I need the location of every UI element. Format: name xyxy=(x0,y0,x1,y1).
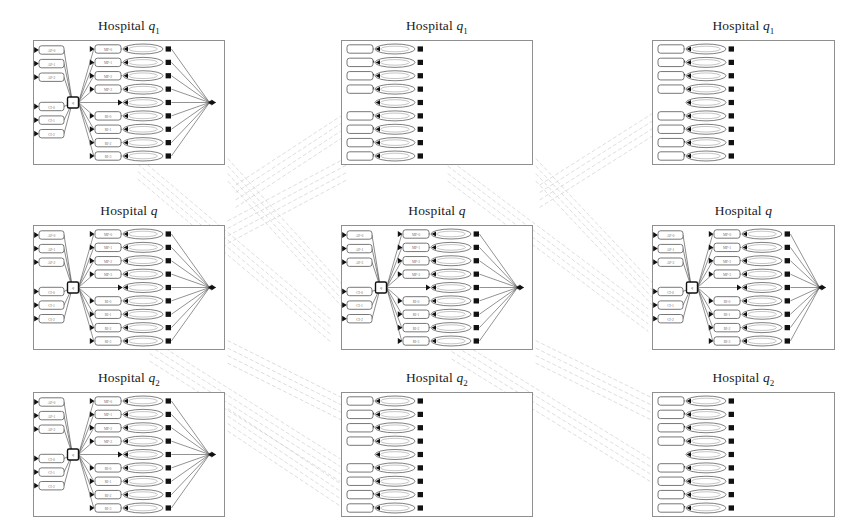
ellipse-node[interactable] xyxy=(123,309,163,319)
mid-node[interactable] xyxy=(658,437,684,445)
mid-node[interactable] xyxy=(347,45,373,53)
mid-node[interactable] xyxy=(658,504,684,512)
ellipse-node[interactable] xyxy=(686,124,726,134)
ellipse-node[interactable] xyxy=(123,98,163,108)
ellipse-node[interactable] xyxy=(123,44,163,54)
mid-node[interactable] xyxy=(658,58,684,66)
ellipse-node[interactable] xyxy=(123,242,163,252)
ellipse-node[interactable] xyxy=(123,138,163,148)
ellipse-node[interactable] xyxy=(686,71,726,81)
ellipse-node[interactable] xyxy=(375,71,415,81)
ellipse-node[interactable] xyxy=(742,323,782,333)
ellipse-node[interactable] xyxy=(375,476,415,486)
mid-node[interactable] xyxy=(658,464,684,472)
ellipse-node[interactable] xyxy=(123,296,163,306)
ellipse-node[interactable] xyxy=(686,98,726,108)
ellipse-node[interactable] xyxy=(123,323,163,333)
mid-node[interactable] xyxy=(658,477,684,485)
mid-node[interactable] xyxy=(347,125,373,133)
mid-node[interactable] xyxy=(658,490,684,498)
ellipse-node[interactable] xyxy=(431,242,471,252)
ellipse-node[interactable] xyxy=(686,463,726,473)
ellipse-node[interactable] xyxy=(123,423,163,433)
mid-node[interactable] xyxy=(658,138,684,146)
ellipse-node[interactable] xyxy=(686,476,726,486)
ellipse-node[interactable] xyxy=(742,309,782,319)
ellipse-node[interactable] xyxy=(123,396,163,406)
mid-node[interactable] xyxy=(347,490,373,498)
ellipse-node[interactable] xyxy=(375,450,415,460)
ellipse-node[interactable] xyxy=(123,476,163,486)
mid-node[interactable] xyxy=(347,112,373,120)
ellipse-node[interactable] xyxy=(375,151,415,161)
ellipse-node[interactable] xyxy=(123,436,163,446)
ellipse-node[interactable] xyxy=(375,436,415,446)
ellipse-node[interactable] xyxy=(431,283,471,293)
ellipse-node[interactable] xyxy=(686,84,726,94)
mid-node[interactable] xyxy=(347,464,373,472)
ellipse-node[interactable] xyxy=(123,151,163,161)
mid-node[interactable] xyxy=(347,85,373,93)
ellipse-node[interactable] xyxy=(123,450,163,460)
mid-node[interactable] xyxy=(347,58,373,66)
mid-node[interactable] xyxy=(658,424,684,432)
ellipse-node[interactable] xyxy=(431,323,471,333)
ellipse-node[interactable] xyxy=(375,423,415,433)
ellipse-node[interactable] xyxy=(431,256,471,266)
ellipse-node[interactable] xyxy=(431,269,471,279)
mid-node[interactable] xyxy=(658,397,684,405)
ellipse-node[interactable] xyxy=(686,396,726,406)
ellipse-node[interactable] xyxy=(123,463,163,473)
ellipse-node[interactable] xyxy=(375,124,415,134)
mid-node[interactable] xyxy=(347,72,373,80)
mid-node[interactable] xyxy=(347,477,373,485)
ellipse-node[interactable] xyxy=(375,111,415,121)
ellipse-node[interactable] xyxy=(123,336,163,346)
ellipse-node[interactable] xyxy=(123,57,163,67)
ellipse-node[interactable] xyxy=(375,463,415,473)
ellipse-node[interactable] xyxy=(123,490,163,500)
ellipse-node[interactable] xyxy=(431,309,471,319)
ellipse-node[interactable] xyxy=(123,71,163,81)
mid-node[interactable] xyxy=(658,85,684,93)
ellipse-node[interactable] xyxy=(431,229,471,239)
ellipse-node[interactable] xyxy=(123,503,163,513)
mid-node[interactable] xyxy=(347,410,373,418)
ellipse-node[interactable] xyxy=(431,296,471,306)
ellipse-node[interactable] xyxy=(686,503,726,513)
ellipse-node[interactable] xyxy=(123,124,163,134)
ellipse-node[interactable] xyxy=(686,409,726,419)
ellipse-node[interactable] xyxy=(375,98,415,108)
mid-node[interactable] xyxy=(658,112,684,120)
ellipse-node[interactable] xyxy=(431,336,471,346)
ellipse-node[interactable] xyxy=(686,450,726,460)
mid-node[interactable] xyxy=(347,397,373,405)
mid-node[interactable] xyxy=(347,152,373,160)
ellipse-node[interactable] xyxy=(123,283,163,293)
ellipse-node[interactable] xyxy=(375,409,415,419)
mid-node[interactable] xyxy=(658,45,684,53)
ellipse-node[interactable] xyxy=(123,111,163,121)
ellipse-node[interactable] xyxy=(742,256,782,266)
ellipse-node[interactable] xyxy=(686,44,726,54)
ellipse-node[interactable] xyxy=(123,256,163,266)
ellipse-node[interactable] xyxy=(123,84,163,94)
ellipse-node[interactable] xyxy=(742,336,782,346)
ellipse-node[interactable] xyxy=(686,57,726,67)
mid-node[interactable] xyxy=(658,152,684,160)
mid-node[interactable] xyxy=(347,437,373,445)
ellipse-node[interactable] xyxy=(375,57,415,67)
ellipse-node[interactable] xyxy=(686,151,726,161)
mid-node[interactable] xyxy=(658,410,684,418)
ellipse-node[interactable] xyxy=(686,138,726,148)
ellipse-node[interactable] xyxy=(375,138,415,148)
ellipse-node[interactable] xyxy=(686,423,726,433)
ellipse-node[interactable] xyxy=(375,503,415,513)
ellipse-node[interactable] xyxy=(123,409,163,419)
ellipse-node[interactable] xyxy=(123,229,163,239)
ellipse-node[interactable] xyxy=(686,490,726,500)
ellipse-node[interactable] xyxy=(686,436,726,446)
ellipse-node[interactable] xyxy=(742,296,782,306)
ellipse-node[interactable] xyxy=(742,242,782,252)
mid-node[interactable] xyxy=(658,72,684,80)
